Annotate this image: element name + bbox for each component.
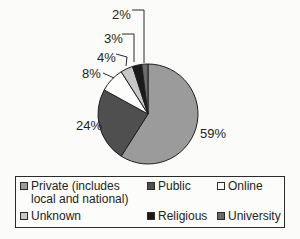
pie-slices [98, 64, 198, 164]
pie-chart [0, 0, 300, 172]
legend-label-unknown: Unknown [31, 210, 81, 223]
slice-label-8pct: 8% [82, 66, 101, 81]
legend-box: Private (includes local and national) Pu… [15, 176, 285, 228]
figure-canvas: 59% 24% 8% 4% 3% 2% Private (includes lo… [0, 0, 300, 239]
legend-label-religious: Religious [158, 210, 207, 223]
legend-item-public: Public [147, 180, 217, 206]
legend-label-private: Private (includes local and national) [31, 180, 147, 206]
legend-item-university: University [217, 210, 283, 223]
legend-label-university: University [228, 210, 281, 223]
legend-item-religious: Religious [147, 210, 217, 223]
legend-swatch-public [147, 182, 155, 190]
leader-line-8pct [103, 73, 114, 78]
legend-swatch-unknown [20, 212, 28, 220]
slice-label-4pct: 4% [97, 50, 116, 65]
legend-label-public: Public [158, 180, 191, 193]
legend-label-online: Online [228, 180, 263, 193]
legend-item-online: Online [217, 180, 283, 206]
legend-swatch-private [20, 182, 28, 190]
leader-line-4pct [116, 54, 127, 66]
slice-label-2pct: 2% [112, 7, 131, 22]
slice-label-3pct: 3% [104, 31, 123, 46]
legend-swatch-university [217, 212, 225, 220]
slice-label-24pct: 24% [76, 118, 102, 133]
legend-item-unknown: Unknown [20, 210, 147, 223]
legend-swatch-online [217, 182, 225, 190]
legend-item-private: Private (includes local and national) [20, 180, 147, 206]
legend-swatch-religious [147, 212, 155, 220]
leader-line-3pct [122, 34, 134, 62]
slice-label-59pct: 59% [200, 126, 226, 141]
